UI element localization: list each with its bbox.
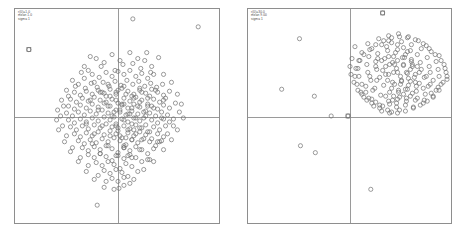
scatter-point — [171, 124, 175, 128]
scatter-panel-right[interactable]: r(0)=30.0 mean 9.00 sigma 1 — [247, 8, 452, 224]
points-svg-left — [15, 9, 219, 223]
scatter-point — [386, 78, 390, 82]
scatter-point — [280, 87, 284, 91]
scatter-point — [66, 104, 70, 108]
scatter-point — [72, 132, 76, 136]
scatter-point — [68, 125, 72, 129]
scatter-point — [64, 88, 68, 92]
scatter-point — [130, 164, 134, 168]
scatter-point — [158, 128, 162, 132]
scatter-point — [128, 51, 132, 55]
scatter-point — [122, 183, 126, 187]
scatter-point — [353, 74, 357, 78]
scatter-point — [150, 87, 154, 91]
scatter-point — [96, 173, 100, 177]
scatter-point — [108, 118, 112, 122]
scatter-point — [102, 168, 106, 172]
scatter-point — [104, 179, 108, 183]
scatter-point — [366, 70, 370, 74]
scatter-point — [90, 102, 94, 106]
scatter-point — [387, 34, 391, 38]
scatter-point — [96, 119, 100, 123]
scatter-point — [78, 135, 82, 139]
scatter-point — [406, 83, 410, 87]
scatter-point — [128, 68, 132, 72]
scatter-point — [78, 156, 82, 160]
scatter-point — [86, 149, 90, 153]
scatter-point — [352, 80, 356, 84]
scatter-point — [90, 92, 94, 96]
scatter-point — [167, 89, 171, 93]
scatter-point — [380, 58, 384, 62]
scatter-point — [76, 139, 80, 143]
scatter-point — [381, 11, 385, 15]
scatter-point — [391, 54, 395, 58]
scatter-point — [386, 49, 390, 53]
scatter-point — [403, 109, 407, 113]
scatter-point — [418, 60, 422, 64]
scatter-point — [394, 66, 398, 70]
scatter-point — [104, 94, 108, 98]
scatter-point — [376, 52, 380, 56]
scatter-panel-left[interactable]: r(0)=1.0 mean 1.0 sigma 1 — [14, 8, 220, 224]
scatter-point — [86, 127, 90, 131]
scatter-point — [161, 103, 165, 107]
scatter-point — [60, 124, 64, 128]
scatter-point — [391, 94, 395, 98]
scatter-point — [175, 92, 179, 96]
scatter-point — [384, 64, 388, 68]
scatter-point — [173, 101, 177, 105]
scatter-point — [372, 104, 376, 108]
scatter-point — [404, 99, 408, 103]
scatter-point — [431, 78, 435, 82]
scatter-point — [418, 103, 422, 107]
scatter-point — [56, 128, 60, 132]
points-layer-left — [15, 9, 219, 223]
scatter-point — [144, 91, 148, 95]
scatter-point — [68, 97, 72, 101]
scatter-point — [79, 70, 83, 74]
scatter-point — [74, 100, 78, 104]
scatter-point — [86, 163, 90, 167]
scatter-point — [134, 156, 138, 160]
scatter-point — [139, 66, 143, 70]
scatter-point — [116, 101, 120, 105]
scatter-point — [92, 177, 96, 181]
scatter-point — [386, 108, 390, 112]
scatter-point — [110, 52, 114, 56]
scatter-point — [380, 109, 384, 113]
scatter-point — [382, 39, 386, 43]
scatter-point — [130, 138, 134, 142]
scatter-point — [158, 100, 162, 104]
scatter-point — [78, 93, 82, 97]
scatter-point — [140, 159, 144, 163]
scatter-point — [106, 159, 110, 163]
scatter-point — [443, 66, 447, 70]
scatter-point — [150, 137, 154, 141]
scatter-point — [408, 67, 412, 71]
points-svg-right — [248, 9, 451, 223]
scatter-point — [80, 146, 84, 150]
scatter-point — [444, 70, 448, 74]
scatter-point — [355, 82, 359, 86]
scatter-point — [357, 74, 361, 78]
scatter-point — [369, 187, 373, 191]
scatter-point — [437, 74, 441, 78]
scatter-point — [414, 84, 418, 88]
scatter-point — [181, 116, 185, 120]
scatter-point — [388, 62, 392, 66]
scatter-point — [110, 74, 114, 78]
scatter-point — [415, 52, 419, 56]
scatter-point — [366, 42, 370, 46]
scatter-point — [356, 88, 360, 92]
scatter-point — [122, 72, 126, 76]
scatter-point — [394, 101, 398, 105]
scatter-point — [104, 155, 108, 159]
scatter-point — [121, 62, 125, 66]
scatter-point — [393, 51, 397, 55]
scatter-point — [102, 115, 106, 119]
scatter-point — [94, 141, 98, 145]
scatter-point — [108, 94, 112, 98]
scatter-point — [116, 179, 120, 183]
scatter-point — [124, 161, 128, 165]
